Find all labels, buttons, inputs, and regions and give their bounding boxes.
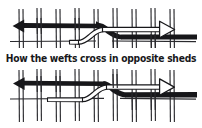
weaving-diagram-figure: How the wefts cross in opposite sheds bbox=[0, 0, 202, 128]
figure-caption: How the wefts cross in opposite sheds bbox=[0, 49, 202, 68]
bottom-ground-weft-lines bbox=[10, 98, 196, 99]
